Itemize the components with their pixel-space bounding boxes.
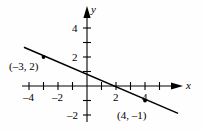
y-tick-label-pos4: 4 [72,23,78,34]
x-tick-label-pos4: 4 [142,92,148,103]
y-axis-name: y [91,4,96,15]
data-point-marker [42,55,46,59]
y-tick-label-neg2: –2 [67,110,78,121]
point-label-a: (–3, 2) [9,61,38,72]
point-label-b: (4, –1) [117,110,146,121]
y-axis-arrow-icon [83,6,90,18]
graph-figure: –4 –2 2 4 4 2 –2 x y (–3, 2) (4, –1) [0,0,202,132]
x-tick-label-pos2: 2 [113,92,119,103]
x-axis-arrow-icon [171,82,183,89]
y-tick-label-pos2: 2 [72,52,78,63]
x-axis-name: x [186,80,191,91]
plotted-line [24,47,178,113]
x-tick-label-neg2: –2 [52,92,63,103]
x-tick-label-neg4: –4 [23,92,34,103]
